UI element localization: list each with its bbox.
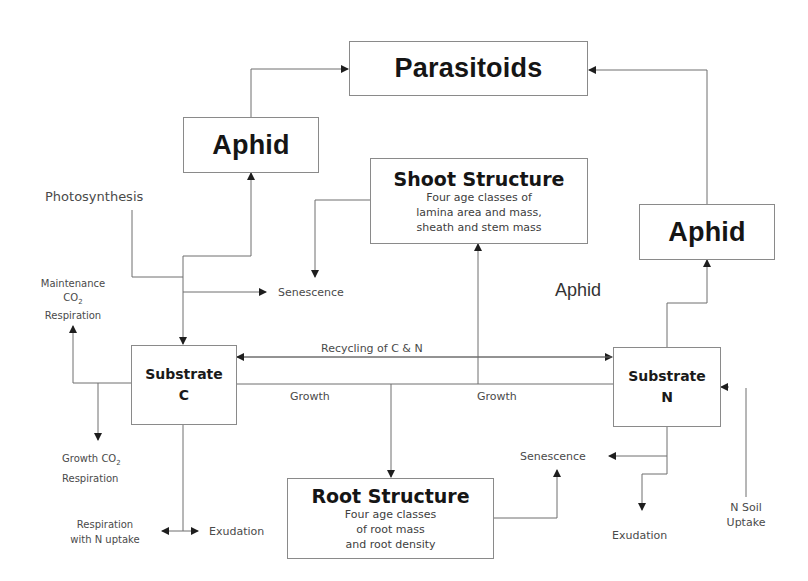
- arrow-shoot-to-senescence: [315, 200, 370, 277]
- root-structure-desc-3: and root density: [345, 537, 435, 552]
- shoot-structure-box: Shoot Structure Four age classes of lami…: [370, 158, 588, 244]
- substrate-c-title-2: C: [179, 385, 189, 406]
- growth-co2-respiration-label: Growth CO2 Respiration: [62, 451, 121, 486]
- substrate-n-box: Substrate N: [613, 347, 721, 427]
- n-soil-line-1: N Soil: [720, 500, 772, 515]
- aphid-right-box: Aphid: [639, 204, 775, 260]
- senescence-root-label: Senescence: [520, 449, 586, 464]
- respiration-line-2: with N uptake: [60, 532, 150, 547]
- root-structure-desc-2: of root mass: [356, 522, 425, 537]
- arrow-aphid-left-to-parasitoids: [251, 69, 348, 117]
- maintenance-line-1: Maintenance: [30, 277, 116, 291]
- recycling-label: Recycling of C & N: [321, 341, 423, 356]
- arrow-to-aphid-left: [183, 173, 251, 256]
- root-structure-title: Root Structure: [311, 485, 469, 507]
- line-substrate-c-left: [73, 326, 131, 383]
- exudation-c-label: Exudation: [209, 524, 264, 539]
- shoot-structure-desc-1: Four age classes of: [426, 190, 532, 205]
- shoot-structure-desc-2: lamina area and mass,: [416, 205, 541, 220]
- growth-co2-line-2: Respiration: [62, 471, 121, 486]
- substrate-c-box: Substrate C: [131, 345, 237, 425]
- line-photosynthesis: [132, 210, 183, 277]
- senescence-shoot-label: Senescence: [278, 285, 344, 300]
- aphid-right-title: Aphid: [668, 217, 745, 248]
- growth-co2-line-1: Growth CO2: [62, 451, 121, 471]
- photosynthesis-label: Photosynthesis: [45, 189, 143, 204]
- aphid-left-title: Aphid: [212, 130, 289, 161]
- maintenance-line-2: CO2: [30, 291, 116, 309]
- growth-left-label: Growth: [290, 389, 330, 404]
- n-soil-uptake-label: N Soil Uptake: [720, 500, 772, 530]
- arrow-aphid-right-to-parasitoids: [589, 70, 707, 204]
- substrate-n-title-1: Substrate: [628, 366, 706, 387]
- aphid-floating-label: Aphid: [555, 283, 601, 298]
- shoot-structure-title: Shoot Structure: [394, 168, 565, 190]
- respiration-line-1: Respiration: [60, 517, 150, 532]
- root-structure-desc-1: Four age classes: [345, 507, 436, 522]
- exudation-n-label: Exudation: [612, 528, 667, 543]
- maintenance-respiration-label: Maintenance CO2 Respiration: [30, 277, 116, 323]
- line-substrate-n-down: [642, 426, 667, 510]
- substrate-n-title-2: N: [661, 387, 673, 408]
- parasitoids-box: Parasitoids: [349, 41, 588, 96]
- arrow-substrate-n-to-aphid-right: [667, 260, 707, 347]
- maintenance-line-3: Respiration: [30, 309, 116, 323]
- respiration-n-uptake-label: Respiration with N uptake: [60, 517, 150, 547]
- arrow-root-to-senescence: [494, 470, 557, 518]
- growth-right-label: Growth: [477, 389, 517, 404]
- root-structure-box: Root Structure Four age classes of root …: [287, 478, 494, 559]
- shoot-structure-desc-3: sheath and stem mass: [416, 220, 541, 235]
- aphid-left-box: Aphid: [183, 117, 319, 173]
- parasitoids-title: Parasitoids: [395, 53, 543, 84]
- n-soil-line-2: Uptake: [720, 515, 772, 530]
- substrate-c-title-1: Substrate: [145, 364, 223, 385]
